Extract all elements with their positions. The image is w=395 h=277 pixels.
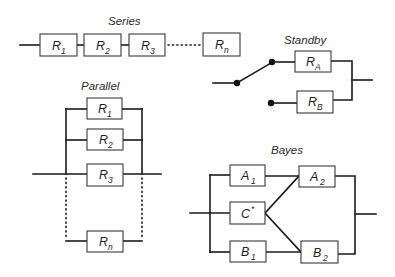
bayes-block-c-star: C * [230, 202, 265, 224]
parallel-block-r3: R 3 [87, 164, 123, 186]
parallel-diagram: Parallel R 1 R 2 R 3 R n [33, 80, 161, 252]
standby-block-rb: R B [297, 91, 333, 113]
block-label: B [313, 246, 321, 260]
bayes-block-a1: A 1 [230, 165, 265, 186]
block-label: R [98, 102, 107, 116]
series-block-r3: R 3 [129, 34, 165, 56]
bayes-wire-c-a2 [265, 176, 299, 213]
block-label: R [96, 39, 105, 53]
standby-block-ra: R A [295, 51, 331, 72]
bayes-wire-c-b2 [265, 213, 301, 252]
bayes-block-b1: B 1 [230, 241, 266, 262]
block-subscript: 1 [251, 176, 256, 186]
block-label: R [306, 55, 315, 69]
standby-title: Standby [284, 34, 327, 46]
block-subscript: 3 [108, 175, 113, 185]
reliability-block-diagrams: Series R 1 R 2 R 3 R n Standby [0, 0, 395, 277]
series-block-rn: R n [203, 33, 240, 56]
block-subscript: 1 [251, 252, 256, 262]
series-diagram: Series R 1 R 2 R 3 R n [20, 15, 240, 56]
block-subscript: n [224, 45, 229, 55]
bayes-block-a2: A 2 [299, 166, 335, 187]
series-block-r1: R 1 [40, 34, 77, 56]
block-label: C [241, 207, 251, 221]
switch-pivot-node [234, 80, 240, 86]
bayes-block-b2: B 2 [301, 241, 338, 263]
block-subscript: B [317, 102, 323, 112]
block-label: A [240, 169, 249, 183]
block-label: R [308, 95, 317, 109]
series-title: Series [108, 15, 141, 27]
block-subscript: 1 [107, 109, 112, 119]
block-subscript: n [108, 242, 113, 252]
block-label: B [241, 245, 249, 259]
standby-output-bus [331, 61, 352, 100]
block-subscript: 2 [104, 46, 110, 56]
bayes-title: Bayes [271, 144, 303, 156]
parallel-title: Parallel [81, 80, 120, 92]
block-label: R [99, 235, 108, 249]
bayes-diagram: Bayes A 1 C * B 1 A 2 [190, 144, 376, 263]
parallel-block-r2: R 2 [87, 129, 123, 150]
block-subscript: 2 [319, 177, 325, 187]
block-label: R [52, 39, 61, 53]
block-label: R [141, 39, 150, 53]
block-label: A [309, 170, 318, 184]
block-subscript: 2 [107, 140, 113, 150]
standby-switch-arm [237, 63, 271, 83]
block-subscript: 1 [61, 46, 66, 56]
parallel-block-r1: R 1 [87, 98, 122, 119]
block-subscript: 3 [150, 46, 155, 56]
block-subscript: 2 [322, 253, 328, 263]
block-label: R [99, 133, 108, 147]
block-label: R [215, 38, 224, 52]
parallel-block-rn: R n [87, 231, 123, 252]
block-label: R [99, 168, 108, 182]
series-block-r2: R 2 [84, 34, 121, 56]
block-subscript: A [314, 62, 321, 72]
